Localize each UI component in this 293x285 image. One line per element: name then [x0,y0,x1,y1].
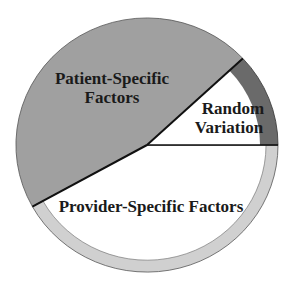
pie-chart: Patient-Specific Factors Random Variatio… [0,0,293,285]
label-random-line1: Random [202,99,264,118]
label-patient-line1: Patient-Specific [55,69,170,88]
label-provider: Provider-Specific Factors [59,197,244,216]
label-patient-line2: Factors [85,88,140,107]
label-random-line2: Variation [195,118,264,137]
